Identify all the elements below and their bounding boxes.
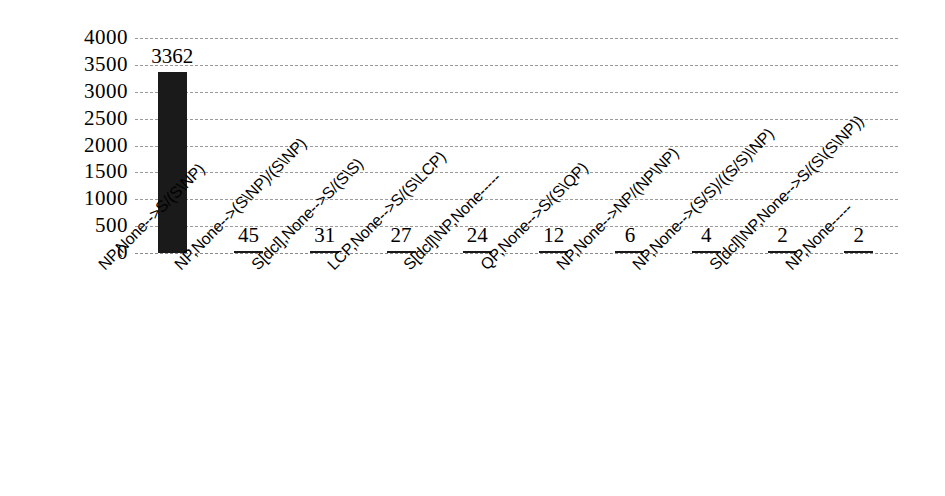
bar-slot: 12 <box>539 38 568 253</box>
bar-slot: 2 <box>768 38 797 253</box>
y-axis-tick-label: 2500 <box>8 108 128 129</box>
bar[interactable] <box>158 72 187 253</box>
y-axis-tick-label: 4000 <box>8 27 128 48</box>
x-axis-labels: NP,None-->S/(S\NP)NP,None-->(S\NP)/(S\NP… <box>135 253 945 493</box>
bar-slot: 27 <box>387 38 416 253</box>
bar-slot: 31 <box>310 38 339 253</box>
bar-value-label: 3362 <box>112 46 232 67</box>
y-axis-tick-label: 500 <box>8 215 128 236</box>
bar-chart: 40003500300025002000150010005000 3362453… <box>0 0 945 496</box>
bar-slot: 24 <box>463 38 492 253</box>
bar-slot: 6 <box>615 38 644 253</box>
y-axis-tick-label: 3000 <box>8 81 128 102</box>
bar-slot: 4 <box>692 38 721 253</box>
y-axis-tick-label: 1000 <box>8 188 128 209</box>
y-axis-tick-label: 2000 <box>8 135 128 156</box>
y-axis: 40003500300025002000150010005000 <box>0 38 128 253</box>
y-axis-tick-label: 3500 <box>8 54 128 75</box>
bar-slot: 3362 <box>158 38 187 253</box>
y-axis-tick-label: 1500 <box>8 161 128 182</box>
bar-slot: 2 <box>844 38 873 253</box>
bar-slot: 45 <box>234 38 263 253</box>
